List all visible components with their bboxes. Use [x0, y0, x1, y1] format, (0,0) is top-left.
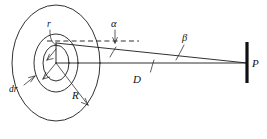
beta-angle-tick [151, 60, 155, 72]
ring-thickness-arrow-line [47, 49, 56, 60]
radius-r-arrow-line [43, 63, 56, 79]
upper-ray-to-P [56, 43, 247, 63]
label-beta: β [181, 32, 188, 43]
label-D: D [132, 73, 141, 85]
label-beta-leader [176, 45, 184, 60]
label-r: r [47, 19, 51, 29]
label-R: R [71, 89, 79, 101]
aperture-diffraction-diagram: r dr R α β D P [0, 0, 267, 139]
figure-container: r dr R α β D P [0, 0, 267, 139]
label-dr: dr [9, 84, 18, 94]
label-alpha: α [111, 18, 117, 29]
label-P: P [251, 57, 259, 69]
